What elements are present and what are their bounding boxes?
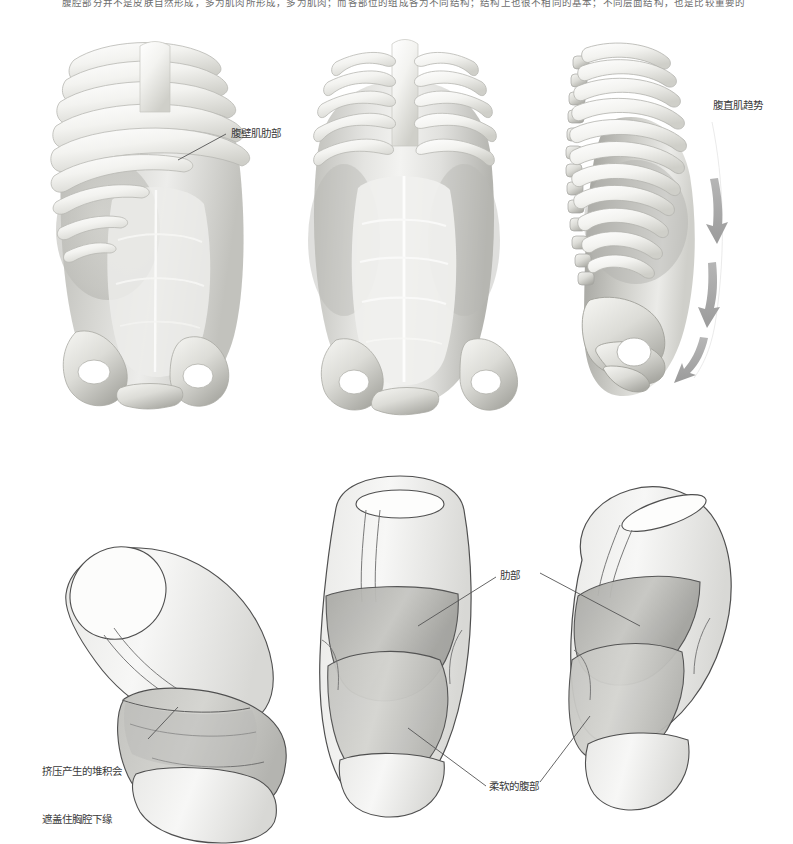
figure-top-front-view	[308, 40, 518, 415]
label-rectus-trend: 腹直肌趋势	[713, 98, 763, 113]
trend-arrow-2	[698, 262, 720, 328]
label-abdominal-rib: 腹壁肌肋部	[231, 126, 281, 141]
label-soft-abdomen: 柔软的腹部	[489, 779, 539, 794]
label-compression-line2: 遮盖住胸腔下缘	[42, 811, 122, 827]
figure-bottom-simplified-tilted	[569, 487, 731, 810]
label-compression: 挤压产生的堆积会 遮盖住胸腔下缘	[42, 731, 122, 843]
anatomy-illustration-canvas	[0, 0, 793, 844]
figure-top-side-view	[566, 43, 695, 396]
figure-bottom-simplified-front	[320, 476, 471, 817]
label-compression-line1: 挤压产生的堆积会	[42, 763, 122, 779]
label-rib-section: 肋部	[500, 568, 520, 583]
figure-top-three-quarter-view	[51, 42, 250, 410]
trend-arrow-1	[706, 178, 728, 244]
